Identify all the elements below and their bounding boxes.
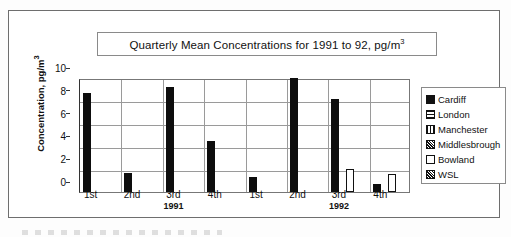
y-axis-tick-mark [66, 113, 70, 114]
legend-item-label: Manchester [438, 124, 488, 135]
bar-bowland-3rd-1992 [346, 169, 354, 192]
legend-item-bowland[interactable]: Bowland [426, 152, 502, 167]
chart-title: Quarterly Mean Concentrations for 1991 t… [129, 37, 404, 51]
gridline-vertical [121, 80, 122, 192]
chart-title-box: Quarterly Mean Concentrations for 1991 t… [97, 32, 437, 56]
chart-figure: Quarterly Mean Concentrations for 1991 t… [0, 0, 511, 237]
y-axis-tick-mark [66, 90, 70, 91]
legend-item-london[interactable]: London [426, 107, 502, 122]
gridline-vertical [287, 80, 288, 192]
legend-item-cardiff[interactable]: Cardiff [426, 92, 502, 107]
y-axis-tick-label: 0 [46, 177, 66, 188]
y-axis-tick-mark [66, 159, 70, 160]
x-axis-tick-label: 1st [84, 189, 97, 200]
y-axis-tick-mark [66, 136, 70, 137]
gridline-vertical [246, 80, 247, 192]
y-axis-tick-label: 2 [46, 154, 66, 165]
gridline-vertical [370, 80, 371, 192]
bar-bowland-4th-1992 [388, 174, 396, 192]
y-axis-title-superscript: 3 [32, 55, 41, 59]
y-axis-title: Concentration, pg/m3 [32, 39, 45, 169]
plot-area [79, 79, 410, 193]
x-axis-tick-label: 1st [250, 189, 263, 200]
legend-swatch-icon [426, 125, 435, 134]
chart-title-superscript: 3 [400, 37, 404, 46]
bar-cardiff-4th-1991 [207, 141, 215, 192]
gridline-horizontal [80, 102, 409, 103]
x-axis-tick-label: 4th [373, 189, 387, 200]
legend-item-label: London [438, 109, 470, 120]
legend-swatch-icon [426, 95, 435, 104]
bar-cardiff-1st-1991 [83, 93, 91, 192]
x-axis-tick-label: 4th [208, 189, 222, 200]
y-axis-tick-label: 8 [46, 85, 66, 96]
legend-item-label: Middlesbrough [438, 139, 500, 150]
legend-swatch-icon [426, 110, 435, 119]
figure-frame: Quarterly Mean Concentrations for 1991 t… [8, 10, 500, 218]
legend-item-manchester[interactable]: Manchester [426, 122, 502, 137]
gridline-horizontal [80, 148, 409, 149]
legend-swatch-icon [426, 170, 435, 179]
y-axis-tick-mark [66, 182, 70, 183]
legend-item-label: Bowland [438, 154, 474, 165]
x-axis-group-label: 1992 [329, 201, 349, 211]
bar-cardiff-3rd-1991 [166, 87, 174, 192]
bar-cardiff-3rd-1992 [331, 99, 339, 192]
legend-item-label: Cardiff [438, 94, 466, 105]
gridline-vertical [204, 80, 205, 192]
legend-swatch-icon [426, 140, 435, 149]
bar-cardiff-2nd-1992 [290, 78, 298, 192]
x-axis-tick-label: 2nd [124, 189, 141, 200]
x-axis-tick-label: 2nd [289, 189, 306, 200]
chart-title-main: Quarterly Mean Concentrations for 1991 t… [129, 39, 400, 51]
y-axis-tick-label: 4 [46, 131, 66, 142]
legend-item-middlesbrough[interactable]: Middlesbrough [426, 137, 502, 152]
x-axis-tick-label: 3rd [332, 189, 346, 200]
y-axis-tick-label: 6 [46, 108, 66, 119]
gridline-vertical [328, 80, 329, 192]
legend-item-label: WSL [438, 169, 459, 180]
legend-item-wsl[interactable]: WSL [426, 167, 502, 182]
legend-swatch-icon [426, 155, 435, 164]
y-axis-title-text: Concentration, pg/m [35, 59, 46, 151]
x-axis-group-label: 1991 [163, 201, 183, 211]
y-axis-tick-mark [66, 68, 70, 69]
y-axis-tick-label: 10 [46, 63, 66, 74]
x-axis-tick-label: 3rd [166, 189, 180, 200]
gridline-horizontal [80, 125, 409, 126]
chart-legend: CardiffLondonManchesterMiddlesbroughBowl… [421, 87, 506, 184]
scan-artifact [22, 230, 222, 235]
gridline-horizontal [80, 171, 409, 172]
gridline-vertical [163, 80, 164, 192]
